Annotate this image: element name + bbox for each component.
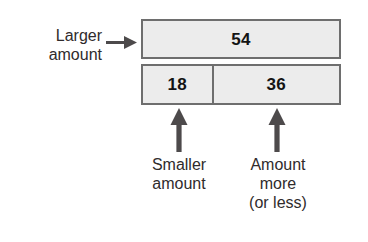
label-smaller-amount: Smaller amount	[133, 155, 225, 193]
label-amount-more: Amount more (or less)	[231, 155, 325, 212]
bar-value-more: 36	[267, 76, 286, 93]
bar-value-larger: 54	[231, 31, 250, 48]
bar-larger-amount: 54	[141, 19, 341, 59]
bar-segment-more: 36	[214, 66, 339, 103]
label-larger-amount: Larger amount	[14, 26, 102, 64]
bar-model-diagram: Larger amount 54 18 36 Smaller amount Am…	[0, 0, 368, 242]
bar-segment-smaller: 18	[143, 66, 214, 103]
arrow-up-icon-smaller	[169, 108, 189, 152]
bar-value-smaller: 18	[168, 76, 187, 93]
bar-parts: 18 36	[141, 64, 341, 105]
arrow-right-icon	[106, 35, 138, 50]
arrow-up-icon-more	[267, 108, 287, 152]
